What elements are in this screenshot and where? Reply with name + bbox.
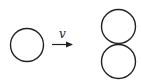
right-top-circle (102, 10, 136, 44)
right-bottom-circle (102, 45, 136, 79)
arrow-label: v (59, 27, 66, 41)
left-circle (11, 29, 44, 62)
diagram-canvas: v (0, 0, 141, 84)
